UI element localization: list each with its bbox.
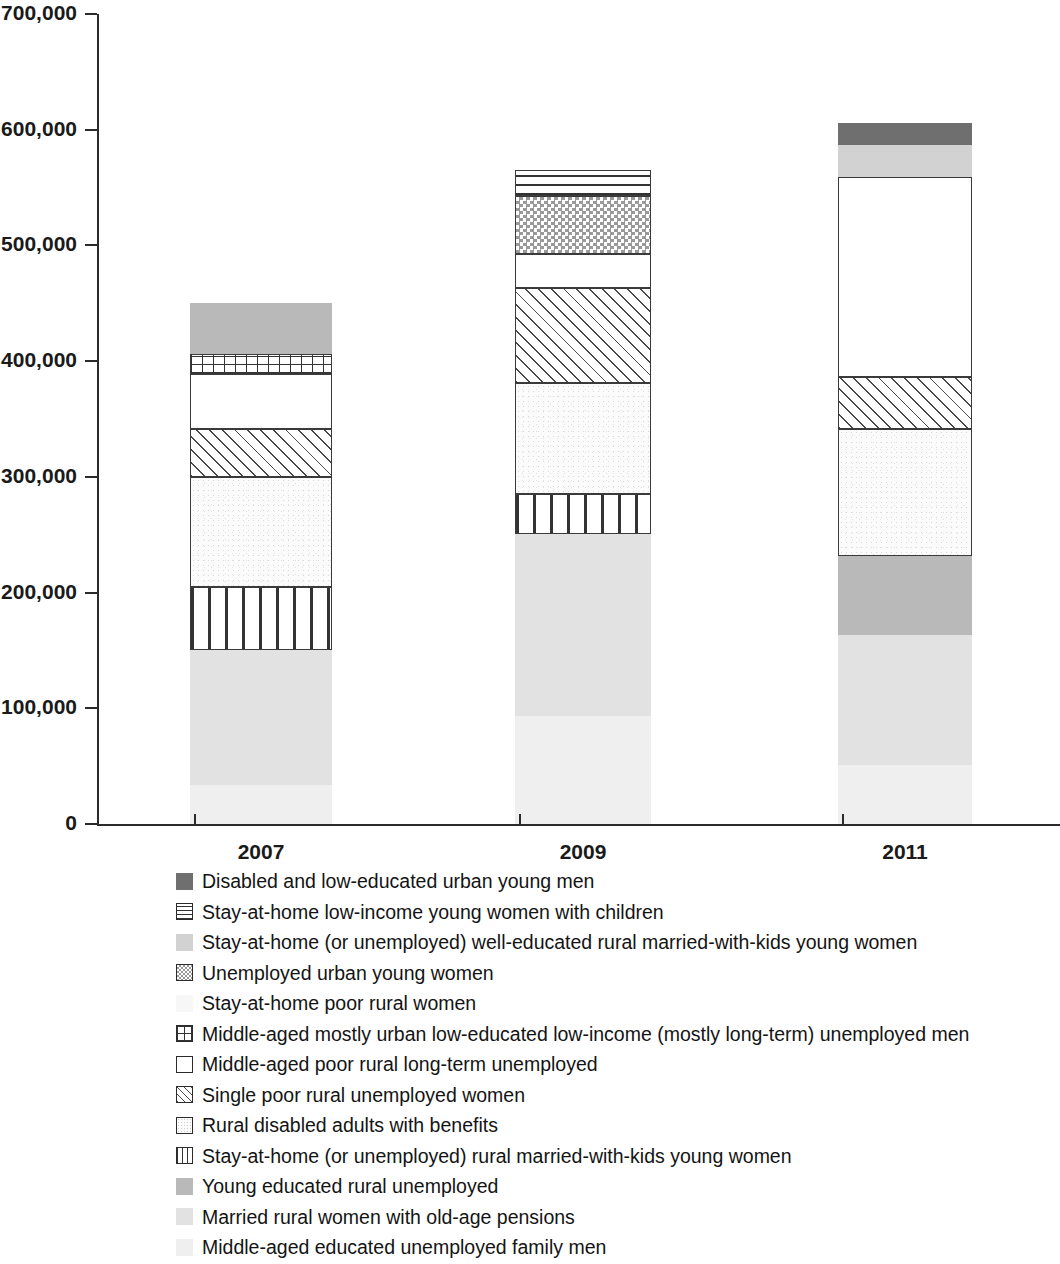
legend-item-label: Single poor rural unemployed women	[202, 1084, 525, 1106]
y-axis-tick-label: 300,000	[1, 464, 77, 488]
legend-item[interactable]: Middle-aged educated unemployed family m…	[0, 1232, 1060, 1263]
legend-swatch-icon	[176, 1056, 193, 1073]
bar-segment[interactable]	[838, 556, 972, 636]
x-axis-tick-label-2011: 2011	[882, 840, 928, 864]
x-axis-line	[97, 824, 1060, 826]
y-axis-tick-label: 600,000	[1, 117, 77, 141]
bar-segment[interactable]	[515, 383, 651, 494]
legend-swatch-icon	[176, 934, 193, 951]
legend-swatch-icon	[176, 995, 193, 1012]
y-axis-tick-mark	[85, 13, 97, 15]
chart-legend: Disabled and low-educated urban young me…	[0, 866, 1060, 1263]
legend-item-label: Unemployed urban young women	[202, 962, 494, 984]
legend-item-label: Stay-at-home (or unemployed) rural marri…	[202, 1145, 792, 1167]
legend-swatch-icon	[176, 964, 193, 981]
legend-item[interactable]: Married rural women with old-age pension…	[0, 1202, 1060, 1233]
legend-swatch-icon	[176, 1178, 193, 1195]
x-axis-tick-label-2009: 2009	[560, 840, 607, 864]
bar-segment[interactable]	[190, 477, 332, 587]
bar-segment[interactable]	[515, 288, 651, 383]
bar-segment[interactable]	[515, 534, 651, 717]
legend-swatch-icon	[176, 1147, 193, 1164]
legend-item-label: Middle-aged mostly urban low-educated lo…	[202, 1023, 969, 1045]
bar-segment[interactable]	[838, 145, 972, 177]
legend-swatch-icon	[176, 1208, 193, 1225]
bar-segment[interactable]	[838, 377, 972, 429]
legend-item[interactable]: Middle-aged mostly urban low-educated lo…	[0, 1019, 1060, 1050]
bar-segment[interactable]	[190, 354, 332, 374]
bar-segment[interactable]	[515, 716, 651, 824]
legend-item[interactable]: Single poor rural unemployed women	[0, 1080, 1060, 1111]
y-axis-tick-mark	[85, 360, 97, 362]
legend-item-label: Middle-aged educated unemployed family m…	[202, 1236, 606, 1258]
stacked-bar-chart: 0100,000200,000300,000400,000500,000600,…	[0, 0, 1060, 864]
y-axis-tick-mark	[85, 823, 97, 825]
bar-segment[interactable]	[190, 650, 332, 784]
y-axis-tick-label: 0	[65, 811, 77, 835]
y-axis-tick-mark	[85, 707, 97, 709]
legend-item-label: Stay-at-home (or unemployed) well-educat…	[202, 931, 917, 953]
legend-item-label: Young educated rural unemployed	[202, 1175, 498, 1197]
x-axis-tick-mark	[519, 814, 521, 825]
bar-segment[interactable]	[838, 123, 972, 145]
legend-item-label: Disabled and low-educated urban young me…	[202, 870, 594, 892]
bar-segment[interactable]	[190, 785, 332, 824]
legend-swatch-icon	[176, 873, 193, 890]
legend-item[interactable]: Stay-at-home poor rural women	[0, 988, 1060, 1019]
legend-swatch-icon	[176, 1086, 193, 1103]
legend-item[interactable]: Rural disabled adults with benefits	[0, 1110, 1060, 1141]
x-axis-tick-mark	[842, 814, 844, 825]
bar-segment[interactable]	[190, 303, 332, 354]
legend-item[interactable]: Young educated rural unemployed	[0, 1171, 1060, 1202]
bar-segment[interactable]	[838, 177, 972, 377]
y-axis-tick-label: 400,000	[1, 348, 77, 372]
legend-item[interactable]: Disabled and low-educated urban young me…	[0, 866, 1060, 897]
legend-item[interactable]: Stay-at-home (or unemployed) rural marri…	[0, 1141, 1060, 1172]
bar-segment[interactable]	[190, 429, 332, 476]
y-axis-tick-label: 100,000	[1, 695, 77, 719]
legend-swatch-icon	[176, 1239, 193, 1256]
y-axis-tick-mark	[85, 244, 97, 246]
bar-segment[interactable]	[515, 196, 651, 254]
x-axis-tick-mark	[194, 814, 196, 825]
stacked-bar-2009[interactable]	[515, 170, 651, 824]
legend-item-label: Rural disabled adults with benefits	[202, 1114, 498, 1136]
bar-segment[interactable]	[838, 635, 972, 765]
bar-segment[interactable]	[190, 587, 332, 651]
y-axis-line	[97, 14, 99, 824]
legend-item[interactable]: Middle-aged poor rural long-term unemplo…	[0, 1049, 1060, 1080]
bar-segment[interactable]	[838, 429, 972, 555]
stacked-bar-2011[interactable]	[838, 125, 972, 824]
x-axis-tick-label-2007: 2007	[238, 840, 285, 864]
legend-item[interactable]: Stay-at-home low-income young women with…	[0, 897, 1060, 928]
legend-item-label: Stay-at-home poor rural women	[202, 992, 476, 1014]
legend-swatch-icon	[176, 1025, 193, 1042]
bar-segment[interactable]	[190, 374, 332, 430]
legend-item-label: Married rural women with old-age pension…	[202, 1206, 575, 1228]
y-axis-tick-label: 500,000	[1, 232, 77, 256]
y-axis-tick-mark	[85, 129, 97, 131]
legend-item[interactable]: Stay-at-home (or unemployed) well-educat…	[0, 927, 1060, 958]
y-axis-tick-label: 700,000	[1, 1, 77, 25]
legend-item[interactable]: Unemployed urban young women	[0, 958, 1060, 989]
bar-segment[interactable]	[515, 254, 651, 289]
bar-segment[interactable]	[838, 765, 972, 824]
bar-segment[interactable]	[515, 494, 651, 533]
legend-item-label: Middle-aged poor rural long-term unemplo…	[202, 1053, 598, 1075]
stacked-bar-2007[interactable]	[190, 296, 332, 824]
y-axis-tick-mark	[85, 592, 97, 594]
y-axis-tick-mark	[85, 476, 97, 478]
legend-swatch-icon	[176, 903, 193, 920]
legend-swatch-icon	[176, 1117, 193, 1134]
legend-item-label: Stay-at-home low-income young women with…	[202, 901, 664, 923]
y-axis-tick-label: 200,000	[1, 580, 77, 604]
bar-segment[interactable]	[515, 170, 651, 195]
